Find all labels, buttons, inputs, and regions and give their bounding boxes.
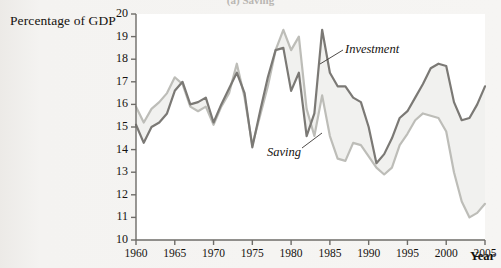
y-tick-label: 16 bbox=[100, 96, 128, 111]
x-tick-label: 2000 bbox=[435, 247, 458, 259]
series-label-saving: Saving bbox=[267, 145, 301, 160]
x-tick-label: 1970 bbox=[202, 247, 225, 259]
y-tick-label: 10 bbox=[100, 232, 128, 247]
y-tick-label: 12 bbox=[100, 187, 128, 202]
y-tick-label: 15 bbox=[100, 119, 128, 134]
x-tick-label: 1975 bbox=[241, 247, 264, 259]
series-label-investment: Investment bbox=[345, 42, 399, 57]
y-tick-label: 11 bbox=[100, 209, 128, 224]
y-tick-label: 13 bbox=[100, 164, 128, 179]
y-tick-label: 18 bbox=[100, 51, 128, 66]
x-tick-label: 1960 bbox=[125, 247, 148, 259]
y-tick-label: 19 bbox=[100, 29, 128, 44]
x-tick-label: 2005 bbox=[474, 247, 497, 259]
x-tick-label: 1980 bbox=[280, 247, 303, 259]
y-tick-label: 17 bbox=[100, 74, 128, 89]
leader-line-saving bbox=[302, 133, 322, 148]
y-tick-label: 20 bbox=[100, 6, 128, 21]
y-tick-label: 14 bbox=[100, 142, 128, 157]
x-tick-label: 1965 bbox=[163, 247, 186, 259]
x-tick-label: 1990 bbox=[357, 247, 380, 259]
saving-investment-line-chart bbox=[0, 0, 501, 268]
x-tick-label: 1995 bbox=[396, 247, 419, 259]
x-tick-label: 1985 bbox=[318, 247, 341, 259]
